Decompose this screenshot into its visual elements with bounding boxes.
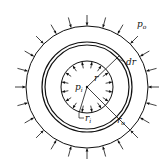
label-pi: pi bbox=[75, 82, 83, 93]
outer-pressure-arrow-head-icon bbox=[149, 86, 152, 89]
inner-pressure-arrow-head-icon bbox=[62, 90, 65, 93]
cylinder-diagram: po pi r dr ri ro bbox=[0, 0, 168, 165]
center-point bbox=[86, 86, 88, 88]
label-r: r bbox=[94, 73, 99, 83]
inner-pressure-arrow-head-icon bbox=[81, 109, 84, 112]
inner-pressure-arrow-head-icon bbox=[109, 90, 112, 93]
radius-r-line bbox=[87, 56, 119, 87]
label-po: po bbox=[137, 19, 147, 30]
label-dr: dr bbox=[126, 57, 137, 67]
label-ri: ri bbox=[85, 113, 91, 124]
outer-pressure-arrow-head-icon bbox=[86, 23, 89, 26]
inner-pressure-arrow-head-icon bbox=[81, 62, 84, 65]
inner-pressure-arrow-head-icon bbox=[90, 109, 93, 112]
ri-mark bbox=[79, 113, 84, 118]
outer-pressure-arrow-head-icon bbox=[23, 86, 26, 89]
inner-pressure-arrow-head-icon bbox=[62, 81, 65, 84]
inner-pressure-arrow-head-icon bbox=[109, 81, 112, 84]
label-ro: ro bbox=[117, 115, 125, 126]
cylinder-figure: po pi r dr ri ro bbox=[0, 0, 168, 165]
inner-pressure-arrow-head-icon bbox=[90, 62, 93, 65]
outer-pressure-arrow-head-icon bbox=[86, 149, 89, 152]
